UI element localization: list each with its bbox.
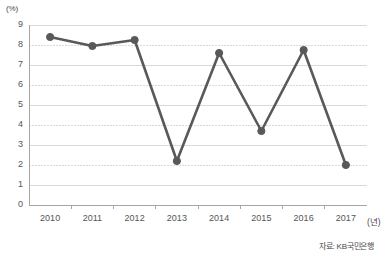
source-attribution: 자료: KB국민은행: [319, 240, 374, 251]
data-series: [47, 33, 350, 168]
x-axis-ticks: [71, 205, 325, 209]
gridlines: [29, 25, 367, 205]
axis-lines: [29, 25, 367, 205]
